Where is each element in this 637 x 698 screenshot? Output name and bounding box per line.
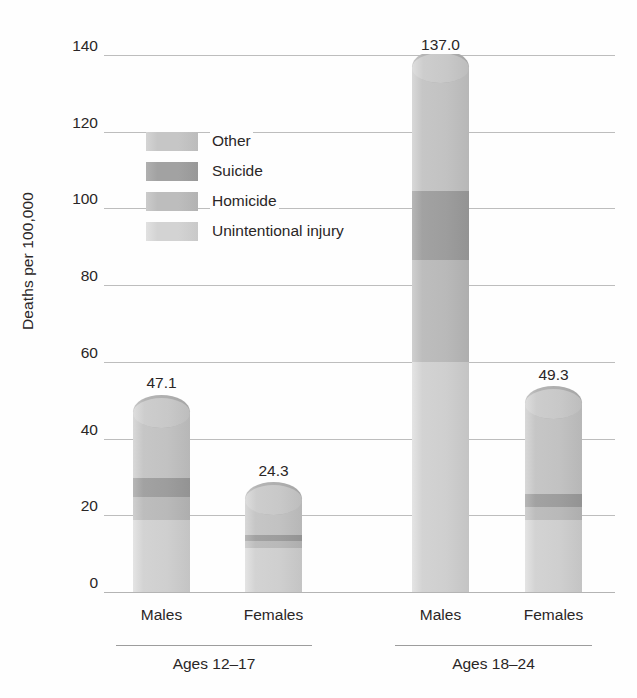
- bar-value-label: 49.3: [494, 366, 614, 384]
- gridline: [104, 55, 615, 56]
- y-axis-tick-label: 60: [58, 344, 98, 362]
- y-axis-tick-label: 0: [58, 574, 98, 592]
- bar-value-label: 24.3: [214, 462, 334, 480]
- bar-segment-unintentional[interactable]: [412, 362, 469, 592]
- y-axis-tick-label: 80: [58, 267, 98, 285]
- legend-swatch-other: [146, 132, 198, 151]
- gridline: [104, 592, 615, 593]
- legend-label-homicide: Homicide: [210, 192, 279, 210]
- legend-label-suicide: Suicide: [210, 162, 265, 180]
- x-axis-category-label: Males: [102, 606, 222, 624]
- bar-value-label: 47.1: [102, 374, 222, 392]
- bar-segment-suicide[interactable]: [133, 478, 190, 497]
- group-label: Ages 12–17: [94, 655, 334, 673]
- bar-segment-unintentional[interactable]: [525, 520, 582, 592]
- bar-segment-suicide[interactable]: [245, 535, 302, 541]
- group-label: Ages 18–24: [374, 655, 614, 673]
- bar-segment-homicide[interactable]: [525, 507, 582, 520]
- stacked-bar-chart: Deaths per 100,000 140120100806040200 47…: [0, 0, 637, 698]
- x-axis-category-label: Males: [381, 606, 501, 624]
- gridline: [104, 285, 615, 286]
- bar-segment-unintentional[interactable]: [133, 520, 190, 592]
- y-axis-tick-label: 40: [58, 421, 98, 439]
- bar-top-cap-highlight: [133, 398, 190, 428]
- legend: Other Suicide Homicide Unintentional inj…: [146, 126, 376, 246]
- bar-column[interactable]: [525, 403, 582, 592]
- bar-value-label: 137.0: [416, 36, 465, 54]
- bar-segment-homicide[interactable]: [245, 541, 302, 548]
- legend-label-other: Other: [210, 132, 253, 150]
- y-axis-tick-label: 100: [58, 190, 98, 208]
- bar-top-cap-highlight: [412, 53, 469, 83]
- y-axis-tick-label: 20: [58, 497, 98, 515]
- gridline: [104, 362, 615, 363]
- group-rule: [395, 645, 592, 646]
- x-axis-category-label: Females: [494, 606, 614, 624]
- bar-column[interactable]: [245, 499, 302, 592]
- legend-item[interactable]: Homicide: [146, 186, 376, 216]
- legend-item[interactable]: Other: [146, 126, 376, 156]
- x-axis-category-label: Females: [214, 606, 334, 624]
- legend-swatch-suicide: [146, 162, 198, 181]
- bar-segment-homicide[interactable]: [412, 260, 469, 362]
- bar-column[interactable]: [133, 411, 190, 592]
- y-axis-tick-label: 120: [58, 114, 98, 132]
- group-rule: [116, 645, 312, 646]
- bar-segment-homicide[interactable]: [133, 497, 190, 520]
- bar-segment-other[interactable]: [412, 67, 469, 191]
- legend-item[interactable]: Suicide: [146, 156, 376, 186]
- bar-column[interactable]: [412, 67, 469, 592]
- bar-segment-suicide[interactable]: [412, 191, 469, 260]
- legend-swatch-unintentional-injury: [146, 222, 198, 241]
- y-axis-title: Deaths per 100,000: [19, 171, 37, 351]
- bar-segment-unintentional[interactable]: [245, 548, 302, 592]
- legend-item[interactable]: Unintentional injury: [146, 216, 376, 246]
- legend-label-unintentional-injury: Unintentional injury: [210, 222, 346, 240]
- bar-segment-suicide[interactable]: [525, 494, 582, 507]
- y-axis-tick-label: 140: [58, 37, 98, 55]
- legend-swatch-homicide: [146, 192, 198, 211]
